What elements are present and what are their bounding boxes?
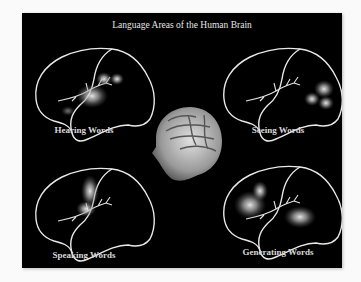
brain-figure-panel: Language Areas of the Human Brain xyxy=(22,13,342,268)
generating-brain xyxy=(224,166,342,259)
head-render xyxy=(152,107,222,181)
brain-diagrams xyxy=(22,13,342,268)
label-hearing: Hearing Words xyxy=(24,125,144,135)
label-generating: Generating Words xyxy=(218,247,338,257)
speaking-brain xyxy=(36,168,155,261)
label-speaking: Speaking Words xyxy=(24,250,144,260)
label-seeing: Seeing Words xyxy=(218,125,338,135)
